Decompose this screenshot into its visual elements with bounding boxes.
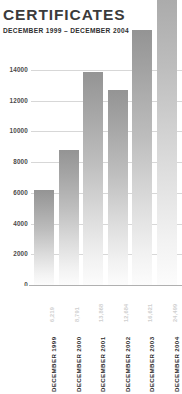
certificates-bar-chart: CERTIFICATES DECEMBER 1999 – DECEMBER 20… [0, 0, 182, 394]
y-axis-tick-label: 12000 [2, 97, 28, 104]
plot-area: 02000400060008000100001200014000 [0, 0, 182, 286]
bar-value-label: 8,791 [72, 288, 82, 322]
chart-title: CERTIFICATES [3, 6, 125, 24]
x-axis-category-label: DECEMBER 2001 [97, 326, 109, 392]
bar-value-label: 6,219 [47, 288, 57, 322]
bar-value-label: 13,868 [96, 288, 106, 322]
y-axis-tick-label: 14000 [2, 66, 28, 73]
y-axis-tick-label: 8000 [2, 158, 28, 165]
x-axis-category-label: DECEMBER 2003 [146, 326, 158, 392]
y-axis-tick-label: 10000 [2, 127, 28, 134]
x-axis-category-label: DECEMBER 2004 [171, 326, 182, 392]
bar-value-label: 16,621 [145, 288, 155, 322]
bar [34, 190, 54, 286]
y-axis-tick-label: 2000 [2, 250, 28, 257]
y-axis-tick-label: 0 [2, 281, 28, 286]
bar [108, 90, 128, 285]
bar-value-labels: 6,2198,79113,86812,68416,62124,499 [0, 288, 182, 324]
x-axis-category-labels: DECEMBER 1999DECEMBER 2000DECEMBER 2001D… [0, 326, 182, 394]
x-axis-category-label: DECEMBER 2002 [122, 326, 134, 392]
bar [59, 150, 79, 285]
x-axis-category-label: DECEMBER 1999 [48, 326, 60, 392]
y-axis-tick-labels: 02000400060008000100001200014000 [0, 0, 28, 286]
bar [157, 0, 177, 285]
bar [132, 30, 152, 285]
chart-subtitle: DECEMBER 1999 – DECEMBER 2004 [3, 27, 129, 34]
bar-value-label: 24,499 [170, 288, 180, 322]
y-axis-tick-label: 6000 [2, 189, 28, 196]
bar [83, 72, 103, 285]
y-axis-tick-label: 4000 [2, 220, 28, 227]
x-axis-category-label: DECEMBER 2000 [73, 326, 85, 392]
bar-value-label: 12,684 [121, 288, 131, 322]
